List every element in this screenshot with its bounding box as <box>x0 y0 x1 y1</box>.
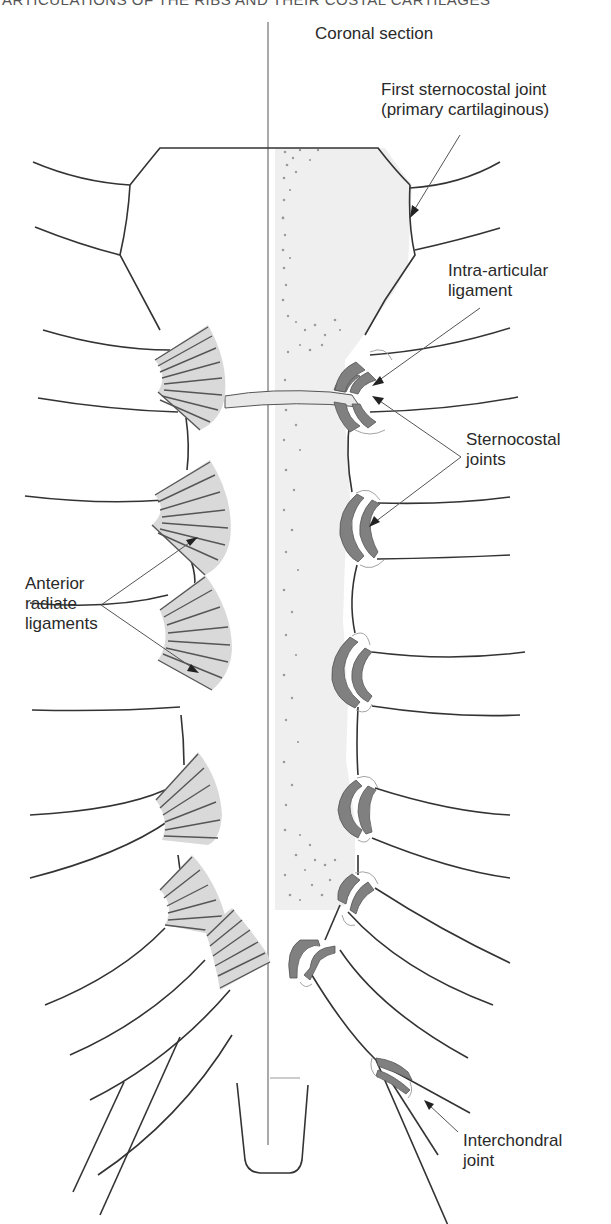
label-intra-articular-ligament: Intra-articular ligament <box>448 261 548 301</box>
label-line: (primary cartilaginous) <box>381 100 549 120</box>
coronal-section-title: Coronal section <box>315 24 433 44</box>
label-line: radiate <box>25 594 98 614</box>
sternocostal-joint <box>289 940 335 987</box>
label-anterior-radiate-ligaments: Anterior radiate ligaments <box>25 574 98 634</box>
label-line: ligament <box>448 281 548 301</box>
label-line: joints <box>466 450 561 470</box>
label-line: First sternocostal joint <box>381 80 549 100</box>
anterior-radiate-ligament-fan <box>155 325 225 430</box>
label-line: Anterior <box>25 574 98 594</box>
label-interchondral-joint: Interchondral joint <box>463 1131 562 1171</box>
anterior-radiate-ligament-fan <box>158 575 232 690</box>
label-sternocostal-joints: Sternocostal joints <box>466 430 561 470</box>
anterior-radiate-ligament-fan <box>152 460 231 575</box>
label-line: joint <box>463 1151 562 1171</box>
label-line: Interchondral <box>463 1131 562 1151</box>
label-line: ligaments <box>25 614 98 634</box>
anterior-radiate-ligament-fan <box>156 752 222 845</box>
label-first-sternocostal-joint: First sternocostal joint (primary cartil… <box>381 80 549 120</box>
label-line: Sternocostal <box>466 430 561 450</box>
label-line: Intra-articular <box>448 261 548 281</box>
